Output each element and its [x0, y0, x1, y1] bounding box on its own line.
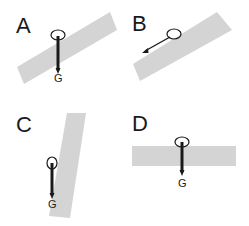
panel-d — [132, 137, 236, 176]
panel-label-d: D — [132, 113, 148, 135]
arrowhead-d — [180, 170, 185, 176]
incline-surface-a — [17, 12, 117, 84]
gravity-label-d: G — [178, 178, 187, 189]
panel-label-b: B — [132, 13, 147, 35]
panel-label-c: C — [16, 114, 32, 136]
gravity-label-c: G — [48, 199, 57, 210]
panel-label-a: A — [16, 15, 31, 37]
gravity-label-a: G — [54, 73, 63, 84]
horizontal-surface-d — [132, 146, 236, 166]
panel-b — [133, 12, 232, 81]
incline-surface-b — [133, 12, 232, 81]
panel-a — [17, 12, 117, 84]
diagram-canvas — [0, 0, 249, 226]
arrowhead-b — [142, 48, 149, 53]
